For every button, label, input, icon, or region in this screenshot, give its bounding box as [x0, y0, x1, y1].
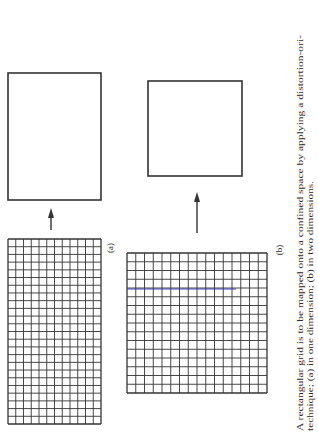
caption-line-1: A rectangular grid is to be mapped onto …	[296, 35, 305, 431]
panel-label-a: (a)	[105, 243, 115, 253]
grid-a	[8, 239, 101, 424]
panel-b: (b)	[127, 81, 284, 393]
target-rectangle-b	[148, 81, 242, 176]
target-rectangle-a	[8, 73, 101, 200]
caption-line-2: technique; (a) in one dimension; (b) in …	[306, 181, 315, 431]
figure-caption: A rectangular grid is to be mapped onto …	[296, 35, 315, 431]
arrow-up-icon	[48, 208, 54, 230]
arrow-up-icon	[194, 192, 200, 233]
figure: (a) (b) A rectangular grid is to be mapp…	[0, 0, 318, 436]
panel-a: (a)	[8, 73, 115, 424]
grid-b	[127, 253, 267, 393]
panel-label-b: (b)	[274, 245, 284, 256]
